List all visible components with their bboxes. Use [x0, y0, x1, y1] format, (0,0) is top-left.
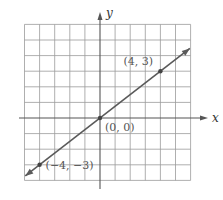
point-label: (4, 3) — [123, 55, 153, 68]
point-label: (−4, −3) — [46, 159, 94, 172]
y-axis-label: y — [105, 6, 113, 20]
point-label: (0, 0) — [105, 121, 135, 134]
x-axis-arrow-icon — [200, 116, 208, 121]
data-point — [37, 163, 41, 167]
coordinate-plane: (−4, −3)(0, 0)(4, 3) x y — [0, 0, 223, 200]
graph-line — [25, 48, 190, 176]
y-axis-arrow-icon — [98, 12, 103, 20]
x-axis-label: x — [212, 111, 219, 125]
data-point — [98, 116, 102, 120]
data-point — [158, 69, 162, 73]
data-line — [25, 48, 190, 176]
